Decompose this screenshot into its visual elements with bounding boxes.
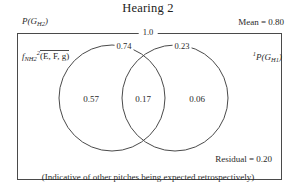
formula-f-subscript2: H2 xyxy=(29,55,37,62)
region-intersection-value: 0.17 xyxy=(135,94,151,104)
region-left-value: 0.57 xyxy=(83,94,99,104)
right-probability-label: 1P(GH1) xyxy=(253,50,282,63)
figure-title: Hearing 2 xyxy=(0,1,296,16)
venn-diagram-figure: Hearing 2 P(GH2) Mean = 0.80 1.0 0.74 0.… xyxy=(0,0,296,190)
universe-total-label: 1.0 xyxy=(139,27,158,37)
mean-label: Mean = 0.80 xyxy=(238,17,284,27)
arc-label-left: 0.74 xyxy=(115,41,134,51)
right-probability-subscript: H1 xyxy=(271,56,279,63)
left-set-formula-label: fNH22(E, F, g) xyxy=(22,49,69,62)
right-probability-prefix: P(G xyxy=(256,52,271,62)
figure-note: (Indicative of other pitches being expec… xyxy=(0,172,296,182)
left-probability-prefix: P(G xyxy=(22,16,37,26)
left-probability-label: P(GH2) xyxy=(22,16,48,27)
region-right-value: 0.06 xyxy=(189,94,205,104)
arc-label-right: 0.23 xyxy=(173,41,192,51)
residual-label: Residual = 0.20 xyxy=(215,154,272,164)
left-probability-close: ) xyxy=(45,16,48,26)
right-probability-close: ) xyxy=(279,52,282,62)
formula-overline-group: (E, F, g) xyxy=(40,50,69,61)
left-probability-subscript: H2 xyxy=(37,20,45,27)
